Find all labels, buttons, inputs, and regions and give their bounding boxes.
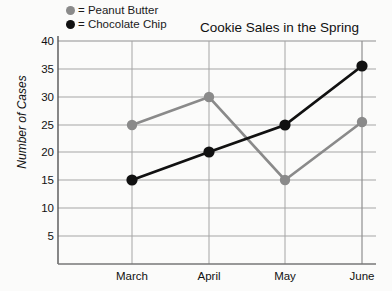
data-point bbox=[280, 175, 290, 185]
data-point bbox=[126, 174, 137, 185]
grid-lines bbox=[58, 41, 376, 264]
data-point bbox=[279, 119, 290, 130]
data-point bbox=[203, 146, 214, 157]
cookie-sales-line-chart: = Peanut Butter = Chocolate Chip Cookie … bbox=[0, 0, 392, 291]
series-chocolate-chip bbox=[126, 60, 367, 185]
data-point bbox=[357, 117, 367, 127]
data-point bbox=[356, 60, 367, 71]
data-point bbox=[127, 120, 137, 130]
plot-area bbox=[0, 0, 392, 291]
data-point bbox=[204, 92, 214, 102]
